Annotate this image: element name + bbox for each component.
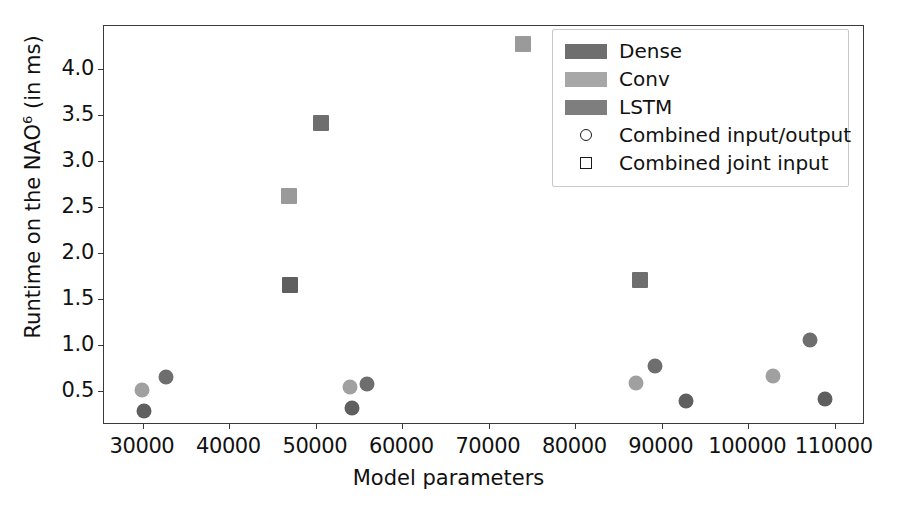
x-axis-tick-mark (835, 423, 836, 429)
legend-key (563, 100, 609, 115)
x-axis-tick-mark (662, 423, 663, 429)
data-point (678, 394, 693, 409)
legend-entry: LSTM (563, 93, 838, 121)
legend-key (563, 129, 609, 141)
data-point (515, 36, 531, 52)
y-axis-tick-label: 3.0 (62, 148, 95, 172)
y-axis-tick-label: 4.0 (62, 56, 95, 80)
y-axis-tick-label: 0.5 (62, 378, 95, 402)
y-axis-label-superscript: 6 (20, 116, 35, 124)
y-axis-tick-mark (98, 345, 104, 346)
data-point (628, 375, 643, 390)
chart-legend: DenseConvLSTMCombined input/outputCombin… (552, 29, 849, 187)
data-point (136, 404, 151, 419)
data-point (313, 115, 329, 131)
data-point (766, 369, 781, 384)
y-axis-tick-label: 2.5 (62, 194, 95, 218)
x-axis-tick-mark (143, 423, 144, 429)
circle-marker-icon (580, 129, 592, 141)
data-point (818, 392, 833, 407)
legend-key (563, 72, 609, 87)
y-axis-tick-mark (98, 69, 104, 70)
x-axis-tick-label: 40000 (196, 434, 261, 458)
legend-entry: Combined input/output (563, 121, 838, 149)
y-axis-tick-mark (98, 391, 104, 392)
legend-color-swatch (565, 72, 607, 87)
y-axis-tick-mark (98, 115, 104, 116)
y-axis-label-base: Runtime on the NAO (21, 124, 45, 339)
data-point (159, 370, 174, 385)
data-point (632, 272, 648, 288)
data-point (802, 332, 817, 347)
x-axis-tick-mark (316, 423, 317, 429)
legend-entry-label: LSTM (609, 95, 672, 119)
y-axis-tick-label: 2.0 (62, 240, 95, 264)
y-axis-tick-label: 1.5 (62, 286, 95, 310)
x-axis-tick-mark (575, 423, 576, 429)
y-axis-tick-mark (98, 207, 104, 208)
data-point (345, 400, 360, 415)
y-axis-tick-label: 3.5 (62, 102, 95, 126)
x-axis-tick-label: 100000 (708, 434, 786, 458)
data-point (282, 277, 298, 293)
data-point (281, 188, 297, 204)
x-axis-tick-mark (748, 423, 749, 429)
x-axis-label: Model parameters (0, 466, 897, 490)
y-axis-tick-mark (98, 299, 104, 300)
x-axis-tick-label: 60000 (369, 434, 434, 458)
x-axis-tick-label: 80000 (542, 434, 607, 458)
legend-entry-label: Dense (609, 39, 682, 63)
data-point (135, 383, 150, 398)
x-axis-tick-mark (402, 423, 403, 429)
x-axis-tick-label: 110000 (795, 434, 873, 458)
scatter-plot-figure: 3000040000500006000070000800009000010000… (0, 0, 897, 518)
legend-entry-label: Conv (609, 67, 670, 91)
legend-key (563, 44, 609, 59)
legend-entry-label: Combined joint input (609, 151, 829, 175)
data-point (359, 376, 374, 391)
y-axis-tick-mark (98, 161, 104, 162)
x-axis-tick-label: 30000 (110, 434, 175, 458)
x-axis-tick-mark (489, 423, 490, 429)
legend-entry: Combined joint input (563, 149, 838, 177)
data-point (343, 380, 358, 395)
x-axis-tick-label: 70000 (455, 434, 520, 458)
x-axis-tick-label: 90000 (628, 434, 693, 458)
legend-color-swatch (565, 100, 607, 115)
legend-entry: Conv (563, 65, 838, 93)
x-axis-tick-label: 50000 (282, 434, 347, 458)
legend-entry: Dense (563, 37, 838, 65)
legend-entry-label: Combined input/output (609, 123, 851, 147)
y-axis-label: Runtime on the NAO6 (in ms) (21, 0, 45, 422)
y-axis-tick-label: 1.0 (62, 332, 95, 356)
square-marker-icon (580, 157, 592, 169)
legend-key (563, 157, 609, 169)
legend-color-swatch (565, 44, 607, 59)
data-point (647, 359, 662, 374)
y-axis-label-tail: (in ms) (21, 35, 45, 115)
x-axis-tick-mark (229, 423, 230, 429)
y-axis-tick-mark (98, 253, 104, 254)
